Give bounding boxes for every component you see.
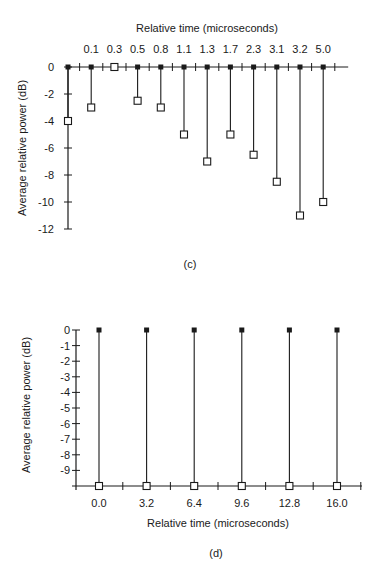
open-square-marker	[111, 64, 118, 71]
open-square-marker	[273, 178, 280, 185]
chart-d-x-tick-labels: 0.03.26.49.612.816.0	[91, 497, 347, 509]
x-tick-label: 9.6	[234, 497, 249, 509]
filled-square-marker	[205, 65, 210, 70]
filled-square-marker	[239, 328, 244, 333]
stem	[297, 65, 304, 220]
y-tick-label: -10	[38, 196, 54, 208]
x-tick-label: 5.0	[316, 43, 331, 55]
filled-square-marker	[251, 65, 256, 70]
filled-square-marker	[287, 328, 292, 333]
filled-square-marker	[321, 65, 326, 70]
chart-c-y-axis-label: Average relative power (dB)	[16, 80, 28, 216]
chart-c-caption: (c)	[184, 258, 197, 270]
open-square-marker	[157, 104, 164, 111]
open-square-marker	[320, 199, 327, 206]
filled-square-marker	[335, 328, 340, 333]
y-tick-label: -5	[60, 402, 70, 414]
chart-d-y-axis-label: Average relative power (dB)	[20, 337, 32, 473]
x-tick-label: 1.3	[200, 43, 215, 55]
y-tick-label: -4	[44, 115, 54, 127]
stem	[250, 65, 257, 159]
filled-square-marker	[228, 65, 233, 70]
filled-square-marker	[97, 328, 102, 333]
stem	[320, 65, 327, 206]
stem	[96, 328, 103, 490]
open-square-marker	[250, 151, 257, 158]
y-tick-label: -12	[38, 223, 54, 235]
open-square-marker	[65, 118, 72, 125]
open-square-marker	[334, 483, 341, 490]
x-tick-label: 0.0	[91, 497, 106, 509]
chart-d: 0-1-2-3-4-5-6-7-8-9 Average relative pow…	[20, 324, 362, 559]
x-tick-label: 2.3	[246, 43, 261, 55]
chart-c-x-axis-label: Relative time (microseconds)	[136, 22, 278, 34]
filled-square-marker	[66, 65, 71, 70]
stem	[134, 65, 141, 105]
stem	[143, 328, 150, 490]
filled-square-marker	[144, 328, 149, 333]
stem	[273, 65, 280, 186]
filled-square-marker	[298, 65, 303, 70]
open-square-marker	[143, 483, 150, 490]
y-tick-label: -2	[60, 355, 70, 367]
open-square-marker	[181, 131, 188, 138]
chart-d-axes	[72, 330, 362, 490]
chart-c-y-tick-labels: 0-2-4-6-8-10-12	[38, 61, 54, 235]
filled-square-marker	[182, 65, 187, 70]
filled-square-marker	[192, 328, 197, 333]
x-tick-label: 12.8	[279, 497, 300, 509]
open-square-marker	[88, 104, 95, 111]
stem	[181, 65, 188, 139]
y-tick-label: -3	[60, 371, 70, 383]
x-tick-label: 1.1	[176, 43, 191, 55]
y-tick-label: -1	[60, 340, 70, 352]
x-tick-label: 16.0	[326, 497, 347, 509]
chart-d-caption: (d)	[209, 547, 222, 559]
chart-c: Relative time (microseconds) 0.10.30.50.…	[16, 22, 348, 270]
x-tick-label: 3.2	[139, 497, 154, 509]
open-square-marker	[286, 483, 293, 490]
chart-d-y-tick-labels: 0-1-2-3-4-5-6-7-8-9	[60, 324, 70, 476]
filled-square-marker	[158, 65, 163, 70]
x-tick-label: 1.7	[223, 43, 238, 55]
x-tick-label: 0.5	[130, 43, 145, 55]
y-tick-label: 0	[64, 324, 70, 336]
x-tick-label: 0.1	[84, 43, 99, 55]
stem	[111, 64, 118, 71]
figure: Relative time (microseconds) 0.10.30.50.…	[0, 0, 381, 571]
y-tick-label: -2	[44, 88, 54, 100]
stem	[88, 65, 95, 112]
stem	[191, 328, 198, 490]
open-square-marker	[96, 483, 103, 490]
filled-square-marker	[135, 65, 140, 70]
x-tick-label: 3.1	[269, 43, 284, 55]
y-tick-label: -6	[60, 418, 70, 430]
chart-c-axes	[64, 63, 348, 229]
stem	[238, 328, 245, 490]
open-square-marker	[191, 483, 198, 490]
open-square-marker	[204, 158, 211, 165]
stem	[286, 328, 293, 490]
y-tick-label: -9	[60, 464, 70, 476]
y-tick-label: 0	[48, 61, 54, 73]
stem	[157, 65, 164, 112]
open-square-marker	[134, 97, 141, 104]
filled-square-marker	[89, 65, 94, 70]
x-tick-label: 0.8	[153, 43, 168, 55]
chart-d-stems	[96, 328, 341, 490]
y-tick-label: -8	[60, 449, 70, 461]
filled-square-marker	[274, 65, 279, 70]
x-tick-label: 3.2	[292, 43, 307, 55]
chart-c-x-tick-labels: 0.10.30.50.81.11.31.72.33.13.25.0	[84, 43, 331, 55]
x-tick-label: 6.4	[187, 497, 202, 509]
stem	[227, 65, 234, 139]
open-square-marker	[238, 483, 245, 490]
stem	[204, 65, 211, 166]
y-tick-label: -4	[60, 386, 70, 398]
open-square-marker	[297, 212, 304, 219]
y-tick-label: -7	[60, 433, 70, 445]
stem	[334, 328, 341, 490]
chart-d-x-axis-label: Relative time (microseconds)	[147, 517, 289, 529]
y-tick-label: -8	[44, 169, 54, 181]
x-tick-label: 0.3	[107, 43, 122, 55]
